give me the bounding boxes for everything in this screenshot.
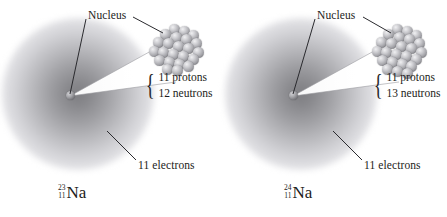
- neutrons-label: 13 neutrons: [386, 86, 440, 100]
- atomic-number: 11: [58, 192, 65, 200]
- panel-sodium-24: Nucleus { 11 protons 13 neutrons 11 elec…: [223, 0, 446, 217]
- protons-label: 11 protons: [158, 70, 212, 84]
- element-symbol: Na: [67, 184, 87, 201]
- nucleus-cluster: [147, 24, 205, 74]
- isotope-diagram: Nucleus { 11 protons 12 neutrons 11 elec…: [0, 0, 447, 217]
- isotope-symbol-na24: 24 11 Na: [284, 184, 312, 201]
- nucleus-label: Nucleus: [317, 9, 355, 23]
- electrons-label: 11 electrons: [138, 159, 195, 173]
- electrons-label: 11 electrons: [364, 159, 421, 173]
- particle-counts: { 11 protons 13 neutrons: [371, 70, 440, 100]
- brace-icon: {: [374, 69, 383, 99]
- nucleus-label: Nucleus: [88, 9, 126, 23]
- nucleus-dot: [289, 91, 298, 100]
- isotope-symbol-na23: 23 11 Na: [58, 184, 86, 201]
- panel-sodium-23: Nucleus { 11 protons 12 neutrons 11 elec…: [0, 0, 223, 217]
- atomic-number: 11: [284, 192, 291, 200]
- element-symbol: Na: [293, 184, 313, 201]
- electron-cloud: [225, 18, 377, 170]
- protons-label: 11 protons: [386, 70, 440, 84]
- neutrons-label: 12 neutrons: [158, 86, 212, 100]
- brace-icon: {: [146, 69, 155, 99]
- particle-counts: { 11 protons 12 neutrons: [143, 70, 212, 100]
- electron-cloud: [2, 18, 154, 170]
- nucleus-dot: [66, 91, 75, 100]
